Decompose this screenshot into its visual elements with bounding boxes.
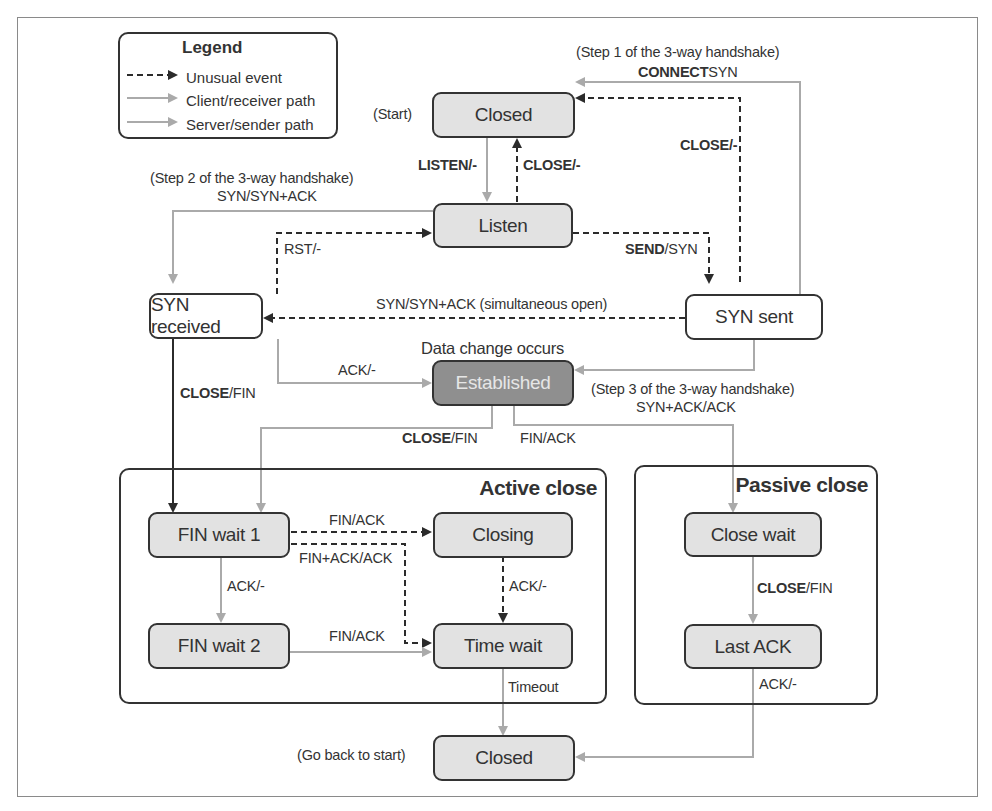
state-closed-end: Closed xyxy=(433,735,575,781)
label-timeout: Timeout xyxy=(508,679,558,695)
label-close-fin-cw: CLOSE/FIN xyxy=(757,580,833,596)
label-close-synsent: CLOSE/- xyxy=(680,137,737,153)
label-bold: CONNECT xyxy=(638,64,708,80)
label-bold: LISTEN xyxy=(418,157,468,173)
step1-annotation: (Step 1 of the 3-way handshake) xyxy=(576,44,779,60)
label-rest: /FIN xyxy=(806,580,833,596)
legend-item-server-path: Server/sender path xyxy=(186,114,314,134)
label-rest: SYN xyxy=(708,64,737,80)
label-rst: RST/- xyxy=(284,241,321,257)
state-syn-sent: SYN sent xyxy=(685,294,823,340)
label-fin-ack-est: FIN/ACK xyxy=(520,430,576,446)
label-listen: LISTEN/- xyxy=(418,157,477,173)
legend-item-client-path: Client/receiver path xyxy=(186,90,315,110)
start-annotation: (Start) xyxy=(373,106,412,122)
state-syn-received: SYN received xyxy=(149,293,263,339)
label-bold: CLOSE xyxy=(680,137,729,153)
label-simultaneous-open: SYN/SYN+ACK (simultaneous open) xyxy=(376,296,607,312)
state-closing: Closing xyxy=(433,512,573,558)
label-close-fin-synrecv: CLOSE/FIN xyxy=(180,385,256,401)
group-title: Passive close xyxy=(735,473,868,497)
legend-label: Client/receiver path xyxy=(186,92,315,109)
state-close-wait: Close wait xyxy=(684,512,822,557)
legend-label: Unusual event xyxy=(186,69,282,86)
label-bold: CLOSE xyxy=(757,580,806,596)
state-listen: Listen xyxy=(433,203,573,248)
step2-annotation: (Step 2 of the 3-way handshake) xyxy=(150,170,353,186)
go-back-annotation: (Go back to start) xyxy=(297,747,405,763)
state-last-ack: Last ACK xyxy=(684,624,822,669)
state-fin-wait-2: FIN wait 2 xyxy=(148,623,290,669)
label-finack-ack: FIN+ACK/ACK xyxy=(299,550,392,566)
label-ack-lastack: ACK/- xyxy=(759,676,797,692)
legend-item-unusual-event: Unusual event xyxy=(186,67,282,87)
label-rest: /- xyxy=(572,157,580,173)
state-time-wait: Time wait xyxy=(433,623,573,669)
legend-title: Legend xyxy=(182,38,242,58)
label-rest: /SYN xyxy=(665,241,698,257)
label-rest: /- xyxy=(468,157,476,173)
label-rest: /FIN xyxy=(451,430,478,446)
state-fin-wait-1: FIN wait 1 xyxy=(148,512,290,558)
state-established: Established xyxy=(432,360,574,406)
legend: Legend Unusual event Client/receiver pat… xyxy=(118,32,338,139)
label-rest: /- xyxy=(729,137,737,153)
label-bold: CLOSE xyxy=(523,157,572,173)
passive-close-group: Passive close xyxy=(634,465,878,705)
label-close-listen: CLOSE/- xyxy=(523,157,580,173)
label-fin-ack-fw2: FIN/ACK xyxy=(329,628,385,644)
label-bold: SEND xyxy=(625,241,665,257)
label-send-syn: SEND/SYN xyxy=(625,241,698,257)
label-close-fin-est: CLOSE/FIN xyxy=(402,430,478,446)
label-syn-synack: SYN/SYN+ACK xyxy=(217,188,317,204)
group-title: Active close xyxy=(479,476,597,500)
label-rest: /FIN xyxy=(229,385,256,401)
legend-label: Server/sender path xyxy=(186,116,314,133)
label-connect-syn: CONNECTSYN xyxy=(638,64,738,80)
state-closed-start: Closed xyxy=(432,92,575,138)
data-change-annotation: Data change occurs xyxy=(421,339,564,358)
label-ack-fw1: ACK/- xyxy=(227,578,265,594)
step3-annotation: (Step 3 of the 3-way handshake) xyxy=(591,381,794,397)
label-ack-closing: ACK/- xyxy=(509,578,547,594)
label-synack-ack: SYN+ACK/ACK xyxy=(636,399,736,415)
label-bold: CLOSE xyxy=(402,430,451,446)
label-ack-synrecv: ACK/- xyxy=(338,362,376,378)
label-fin-ack-fw1: FIN/ACK xyxy=(329,512,385,528)
label-bold: CLOSE xyxy=(180,385,229,401)
